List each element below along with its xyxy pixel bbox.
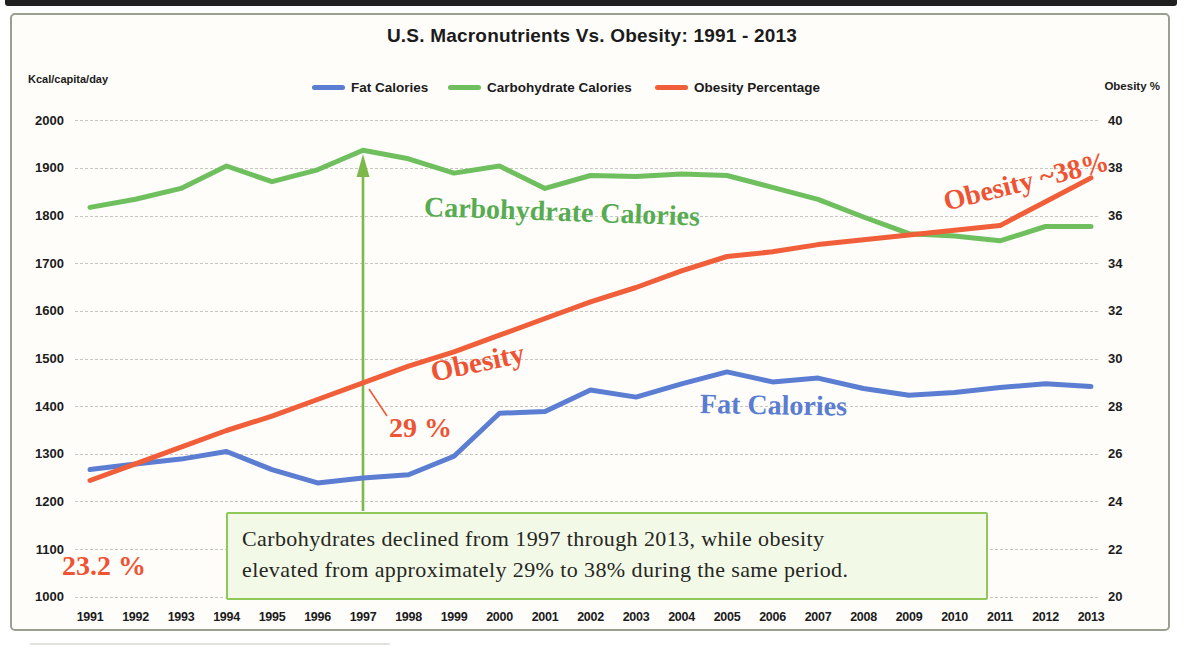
x-axis-tick: 2006	[750, 610, 796, 624]
x-axis-tick: 2009	[886, 610, 932, 624]
scan-artifact	[30, 643, 390, 645]
y-axis-tick-left: 1700	[18, 256, 64, 272]
x-axis-tick: 1997	[340, 610, 386, 624]
y-axis-tick-right: 24	[1108, 494, 1148, 510]
x-axis-tick: 2012	[1023, 610, 1069, 624]
carbohydrate-calories-legend-swatch	[448, 85, 481, 90]
y-axis-tick-left: 1100	[18, 542, 64, 558]
y-axis-tick-right: 38	[1108, 160, 1148, 176]
obesity-start-value-label: 23.2 %	[62, 550, 146, 582]
gridline	[75, 120, 1098, 121]
right-axis-unit-label: Obesity %	[1060, 80, 1160, 92]
gridline	[75, 311, 1098, 312]
legend-item-carbohydrate-calories: Carbohydrate Calories	[448, 80, 632, 95]
fat-calories-line-label: Fat Calories	[700, 388, 848, 423]
x-axis-tick: 2008	[841, 610, 887, 624]
x-axis-tick: 1996	[295, 610, 341, 624]
annotation-line-1: Carbohydrates declined from 1997 through…	[242, 523, 986, 554]
x-axis-tick: 1994	[204, 610, 250, 624]
x-axis-tick: 1995	[249, 610, 295, 624]
x-axis-tick: 2005	[704, 610, 750, 624]
gridline	[75, 454, 1098, 455]
gridline	[75, 501, 1098, 502]
y-axis-tick-left: 1800	[18, 208, 64, 224]
x-axis-tick: 2013	[1068, 610, 1114, 624]
gridline	[75, 263, 1098, 264]
x-axis-tick: 2003	[613, 610, 659, 624]
legend-label: Carbohydrate Calories	[487, 80, 632, 95]
x-axis-tick: 1991	[67, 610, 113, 624]
y-axis-tick-right: 36	[1108, 208, 1148, 224]
y-axis-tick-left: 1000	[18, 589, 64, 605]
y-axis-tick-right: 32	[1108, 303, 1148, 319]
chart-title: U.S. Macronutrients Vs. Obesity: 1991 - …	[0, 25, 1184, 47]
x-axis-tick: 1999	[431, 610, 477, 624]
y-axis-tick-left: 2000	[18, 113, 64, 129]
chart-page: U.S. Macronutrients Vs. Obesity: 1991 - …	[0, 0, 1184, 650]
y-axis-tick-left: 1600	[18, 303, 64, 319]
y-axis-tick-right: 26	[1108, 446, 1148, 462]
y-axis-tick-right: 28	[1108, 399, 1148, 415]
x-axis-tick: 2011	[977, 610, 1023, 624]
scan-top-bar	[5, 0, 1177, 6]
gridline	[75, 406, 1098, 407]
x-axis-tick: 2000	[477, 610, 523, 624]
x-axis-tick: 2001	[522, 610, 568, 624]
x-axis-tick: 1993	[158, 610, 204, 624]
left-axis-unit-label: Kcal/capita/day	[28, 73, 108, 85]
x-axis-tick: 1998	[386, 610, 432, 624]
annotation-line-2: elevated from approximately 29% to 38% d…	[242, 554, 986, 585]
x-axis-tick: 2002	[568, 610, 614, 624]
y-axis-tick-right: 34	[1108, 256, 1148, 272]
obesity-29-percent-label: 29 %	[389, 412, 452, 444]
x-axis-tick: 2004	[659, 610, 705, 624]
x-axis-tick: 1992	[113, 610, 159, 624]
y-axis-tick-left: 1400	[18, 399, 64, 415]
legend-item-fat-calories: Fat Calories	[312, 80, 428, 95]
x-axis-tick: 2010	[932, 610, 978, 624]
annotation-box: Carbohydrates declined from 1997 through…	[226, 512, 988, 600]
y-axis-tick-left: 1300	[18, 446, 64, 462]
y-axis-tick-left: 1200	[18, 494, 64, 510]
legend-label: Obesity Percentage	[694, 80, 820, 95]
gridline	[75, 168, 1098, 169]
obesity-percentage-legend-swatch	[655, 85, 688, 90]
y-axis-tick-left: 1500	[18, 351, 64, 367]
y-axis-tick-left: 1900	[18, 160, 64, 176]
legend-item-obesity-percentage: Obesity Percentage	[655, 80, 820, 95]
legend-label: Fat Calories	[351, 80, 428, 95]
y-axis-tick-right: 22	[1108, 542, 1148, 558]
x-axis-tick: 2007	[795, 610, 841, 624]
y-axis-tick-right: 20	[1108, 589, 1148, 605]
gridline	[75, 359, 1098, 360]
y-axis-tick-right: 40	[1108, 113, 1148, 129]
y-axis-tick-right: 30	[1108, 351, 1148, 367]
fat-calories-legend-swatch	[312, 85, 345, 90]
